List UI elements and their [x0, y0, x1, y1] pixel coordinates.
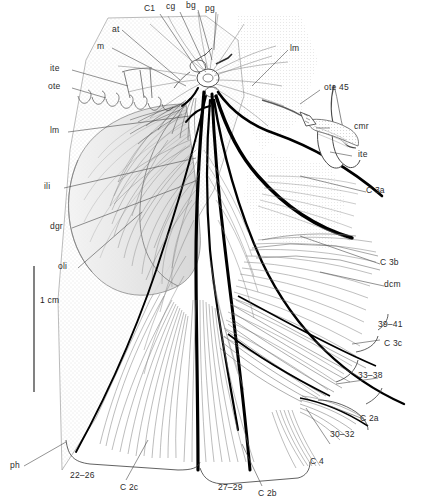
dcm-muscle-fan	[222, 237, 376, 396]
label-ite-left: ite	[50, 64, 60, 73]
label-33-38: 33–38	[358, 371, 383, 380]
label-ote-left: ote	[48, 82, 60, 91]
label-ili: ili	[44, 182, 50, 191]
label-C2b: C 2b	[258, 489, 277, 498]
label-pg: pg	[205, 4, 215, 13]
label-cg: cg	[166, 2, 175, 11]
label-dgr: dgr	[50, 222, 63, 231]
label-30-32: 30–32	[330, 430, 355, 439]
label-ph: ph	[10, 461, 20, 470]
label-lm-right: lm	[290, 44, 299, 53]
fibre-fan-darkline	[228, 296, 376, 396]
label-bg: bg	[186, 1, 196, 10]
label-m: m	[97, 42, 104, 51]
label-22-26: 22–26	[70, 471, 95, 480]
label-C2c: C 2c	[120, 483, 138, 492]
label-C2a: C 2a	[360, 414, 379, 423]
label-ote-45: ote 45	[324, 83, 349, 92]
figure-drawing	[0, 0, 433, 502]
label-lm-left: lm	[50, 126, 59, 135]
label-C1: C1	[144, 4, 155, 13]
label-C4: C 4	[310, 457, 324, 466]
label-dcm: dcm	[384, 280, 401, 289]
label-at: at	[112, 25, 120, 34]
label-cmr: cmr	[354, 122, 369, 131]
scale-bar-label: 1 cm	[40, 296, 59, 305]
label-C3c: C 3c	[384, 339, 402, 348]
label-C3a: C 3a	[366, 186, 385, 195]
label-27-29: 27–29	[218, 483, 243, 492]
anatomical-figure: at m C1 cg bg pg lm ite ote lm ili dgr o…	[0, 0, 433, 502]
label-oli: oli	[58, 262, 67, 271]
label-C3b: C 3b	[380, 258, 399, 267]
label-39-41: 39–41	[378, 320, 403, 329]
label-ite-right: ite	[358, 150, 368, 159]
